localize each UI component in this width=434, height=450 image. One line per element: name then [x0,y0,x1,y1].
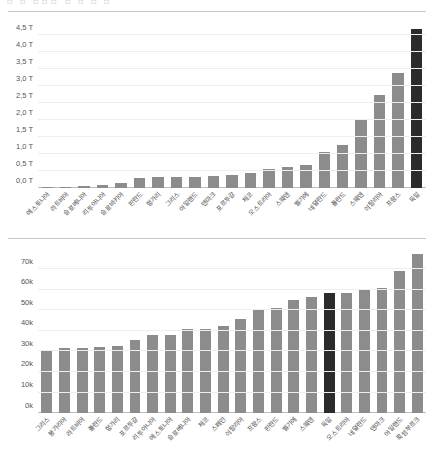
bar-column[interactable] [297,18,315,188]
x-axis-label-text: 프랑스 [385,191,402,208]
bar-column[interactable] [391,253,409,413]
bar-column[interactable] [38,253,56,413]
gridline [38,187,426,188]
y-axis-tick-label: 4,0 T [16,41,33,49]
bar[interactable] [41,350,52,413]
divider-top [8,11,426,12]
gdp-per-capita-chart-bars [38,253,426,413]
gdp-per-capita-chart-plot-area: 그리스불가리아라트비아폴란드헝가리포르투갈리투아니아에스토니아슬로베니아체코스페… [38,253,426,413]
gridline [38,51,426,52]
bar-column[interactable] [56,18,74,188]
gridline [38,392,426,393]
x-axis-label: 이탈리아 [232,413,250,450]
bar-column[interactable] [315,18,333,188]
bar-column[interactable] [241,18,259,188]
x-axis-label-text: 폴란드 [330,191,347,208]
bar-column[interactable] [232,253,250,413]
gridline [38,412,426,413]
bar-column[interactable] [204,18,222,188]
gridline [38,153,426,154]
bar[interactable] [165,335,176,413]
bar[interactable] [218,326,229,413]
bar[interactable] [94,347,105,413]
bar[interactable] [245,173,256,188]
bar-column[interactable] [373,253,391,413]
gridline [38,119,426,120]
x-axis-label-text: 헝가리 [145,191,162,208]
bar-column[interactable] [161,253,179,413]
bar[interactable] [263,169,274,188]
bar-column[interactable] [109,253,127,413]
bar-column[interactable] [130,18,148,188]
bar-column[interactable] [334,18,352,188]
gridline [38,350,426,351]
bar[interactable] [412,254,423,413]
bar[interactable] [411,29,422,188]
bar-column[interactable] [260,18,278,188]
bar[interactable] [288,300,299,413]
bar-column[interactable] [408,253,426,413]
gridline [38,34,426,35]
bar[interactable] [324,293,335,413]
bar[interactable] [112,346,123,413]
bar-column[interactable] [338,253,356,413]
bar-column[interactable] [144,253,162,413]
bar-column[interactable] [278,18,296,188]
x-axis-label: 프랑스 [389,188,407,234]
bar[interactable] [59,348,70,413]
x-axis-label: 독일 [407,188,425,234]
x-axis-label-text: 핀란드 [127,191,144,208]
bar-column[interactable] [126,253,144,413]
gdp-chart-plot-area: 에스토니아라트비아슬로베니아리투아니아슬로바키아핀란드헝가리그리스아일랜드덴마크… [38,18,426,188]
bar[interactable] [374,95,385,188]
bar-column[interactable] [197,253,215,413]
bar-column[interactable] [112,18,130,188]
y-axis-tick-label: 0,0 T [16,177,33,185]
bar-column[interactable] [285,253,303,413]
bar-column[interactable] [352,18,370,188]
bar[interactable] [235,319,246,413]
bar[interactable] [77,348,88,413]
bar-column[interactable] [303,253,321,413]
bar[interactable] [147,335,158,413]
bar-column[interactable] [356,253,374,413]
gdp-chart: 에스토니아라트비아슬로베니아리투아니아슬로바키아핀란드헝가리그리스아일랜드덴마크… [0,14,434,232]
x-axis-label: 체코 [197,413,215,450]
x-axis-label: 네덜란드 [356,413,374,450]
bar[interactable] [300,165,311,188]
bar-column[interactable] [75,18,93,188]
bar[interactable] [341,293,352,413]
bar-column[interactable] [149,18,167,188]
bar-column[interactable] [186,18,204,188]
y-axis-tick-label: 50k [21,299,33,307]
bar-column[interactable] [223,18,241,188]
bar-column[interactable] [320,253,338,413]
bar-column[interactable] [91,253,109,413]
gdp-per-capita-chart-x-labels: 그리스불가리아라트비아폴란드헝가리포르투갈리투아니아에스토니아슬로베니아체코스페… [38,413,426,450]
bar-column[interactable] [56,253,74,413]
bar-column[interactable] [38,18,56,188]
x-axis-label: 슬로바키아 [112,188,130,234]
bar-column[interactable] [73,253,91,413]
bar-column[interactable] [214,253,232,413]
y-axis-tick-label: 0,5 T [16,160,33,168]
bar-column[interactable] [250,253,268,413]
bar[interactable] [306,297,317,413]
bar[interactable] [271,308,282,413]
bar-column[interactable] [267,253,285,413]
x-axis-label-text: 에스토니아 [26,191,52,217]
gridline [38,268,426,269]
gridline [38,330,426,331]
x-axis-label: 포르투갈 [223,188,241,234]
gdp-chart-x-labels: 에스토니아라트비아슬로베니아리투아니아슬로바키아핀란드헝가리그리스아일랜드덴마크… [38,188,426,234]
bar[interactable] [253,309,264,413]
bar-column[interactable] [167,18,185,188]
bar-column[interactable] [93,18,111,188]
x-axis-label-text: 체코 [242,191,255,204]
bar[interactable] [337,145,348,188]
x-axis-label: 핀란드 [267,413,285,450]
bar-column[interactable] [370,18,388,188]
bar-column[interactable] [389,18,407,188]
bar-column[interactable] [179,253,197,413]
bar-column[interactable] [407,18,425,188]
